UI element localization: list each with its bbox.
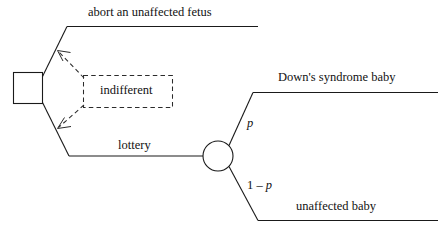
decision-node-square[interactable] — [14, 73, 43, 104]
branch-label-abort: abort an unaffected fetus — [88, 6, 212, 19]
decision-tree-diagram: abort an unaffected fetus Down's syndrom… — [0, 0, 438, 231]
indifference-arrow-upper-head-icon — [58, 51, 71, 62]
indifference-arrow-upper-shaft — [59, 52, 85, 79]
branch-line-unaffected-diagonal — [229, 167, 258, 221]
branch-label-unaffected-baby: unaffected baby — [296, 200, 376, 213]
probability-label-lower: 1 – p — [247, 179, 272, 192]
probability-label-upper: p — [247, 117, 253, 130]
probability-lower-prefix: 1 – — [247, 178, 266, 192]
branch-label-downs-syndrome-baby: Down's syndrome baby — [278, 71, 396, 84]
probability-lower-symbol: p — [266, 178, 272, 192]
branch-line-lottery-diagonal — [43, 103, 70, 157]
branch-label-lottery: lottery — [118, 139, 151, 152]
tree-graphics — [0, 0, 438, 231]
indifference-arrow-lower-shaft — [59, 105, 85, 128]
indifferent-label: indifferent — [100, 84, 153, 97]
chance-node-circle[interactable] — [203, 141, 233, 171]
